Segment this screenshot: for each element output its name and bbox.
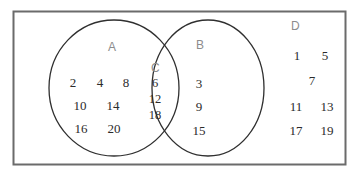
region-c-number: 12: [146, 93, 164, 106]
region-d-number: 19: [317, 124, 337, 137]
region-d-number: 5: [318, 49, 332, 62]
venn-diagram-figure: A C B D 2 4 8 10 14 16 20 6 12 18 3 9 15…: [0, 0, 361, 176]
set-label-a: A: [108, 41, 116, 53]
set-label-b: B: [196, 39, 204, 51]
region-a-number: 10: [70, 99, 90, 112]
region-c-number: 18: [146, 109, 164, 122]
region-d-number: 11: [286, 100, 306, 113]
region-d-number: 13: [317, 100, 337, 113]
region-a-number: 16: [71, 122, 91, 135]
venn-diagram-shapes: [0, 0, 361, 176]
region-d-number: 1: [290, 49, 304, 62]
region-b-number: 3: [192, 77, 206, 90]
region-d-number: 17: [286, 124, 306, 137]
set-label-d: D: [291, 20, 300, 32]
region-a-number: 4: [93, 76, 107, 89]
region-a-number: 14: [103, 99, 123, 112]
region-c-number: 6: [146, 77, 164, 90]
region-a-number: 8: [119, 76, 133, 89]
region-b-number: 9: [192, 100, 206, 113]
region-b-number: 15: [189, 124, 209, 137]
region-d-number: 7: [305, 74, 319, 87]
region-a-number: 20: [104, 122, 124, 135]
set-label-c: C: [151, 62, 160, 74]
region-a-number: 2: [66, 76, 80, 89]
